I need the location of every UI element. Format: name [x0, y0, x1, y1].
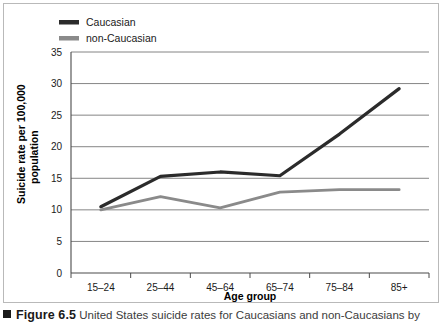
legend-swatch-caucasian [59, 20, 79, 25]
x-axis-title: Age group [224, 290, 277, 302]
axis-lines [71, 52, 429, 273]
figure-caption: Figure 6.5 United States suicide rates f… [3, 308, 441, 323]
chart-frame: Caucasian non-Caucasian 05101520253035 1… [3, 3, 439, 303]
y-tick-label-20: 20 [51, 141, 63, 152]
y-axis-tick-labels: 05101520253035 [51, 47, 63, 279]
x-axis-ticks [71, 273, 429, 278]
y-axis-title-line1: Suicide rate per 100,000 [15, 84, 27, 204]
x-tick-label-1: 25–44 [147, 282, 175, 293]
caption-figure-number: Figure 6.5 [16, 308, 76, 322]
legend-label-caucasian: Caucasian [86, 16, 136, 28]
y-gridlines [71, 52, 429, 241]
y-tick-label-0: 0 [56, 268, 62, 279]
y-tick-label-5: 5 [56, 236, 62, 247]
legend-swatch-non-caucasian [59, 36, 79, 41]
chart-legend: Caucasian non-Caucasian [59, 16, 157, 44]
y-tick-label-15: 15 [51, 173, 63, 184]
caption-text: United States suicide rates for Caucasia… [79, 309, 420, 321]
y-axis-title: Suicide rate per 100,000 population [15, 84, 40, 204]
y-tick-label-30: 30 [51, 78, 63, 89]
y-tick-label-35: 35 [51, 47, 63, 58]
y-axis-title-line2: population [28, 130, 40, 184]
legend-item-non-caucasian: non-Caucasian [59, 32, 157, 44]
x-tick-label-0: 15–24 [87, 282, 115, 293]
series-line-non-caucasian [101, 190, 399, 210]
y-tick-label-10: 10 [51, 204, 63, 215]
legend-label-non-caucasian: non-Caucasian [86, 32, 157, 44]
data-series-lines [101, 89, 399, 210]
figure-container: Caucasian non-Caucasian 05101520253035 1… [0, 0, 444, 333]
x-tick-label-4: 75–84 [326, 282, 354, 293]
y-tick-label-25: 25 [51, 110, 63, 121]
legend-item-caucasian: Caucasian [59, 16, 136, 28]
suicide-rate-line-chart: Caucasian non-Caucasian 05101520253035 1… [4, 4, 438, 302]
caption-marker-icon [3, 310, 11, 318]
x-tick-label-5: 85+ [391, 282, 408, 293]
